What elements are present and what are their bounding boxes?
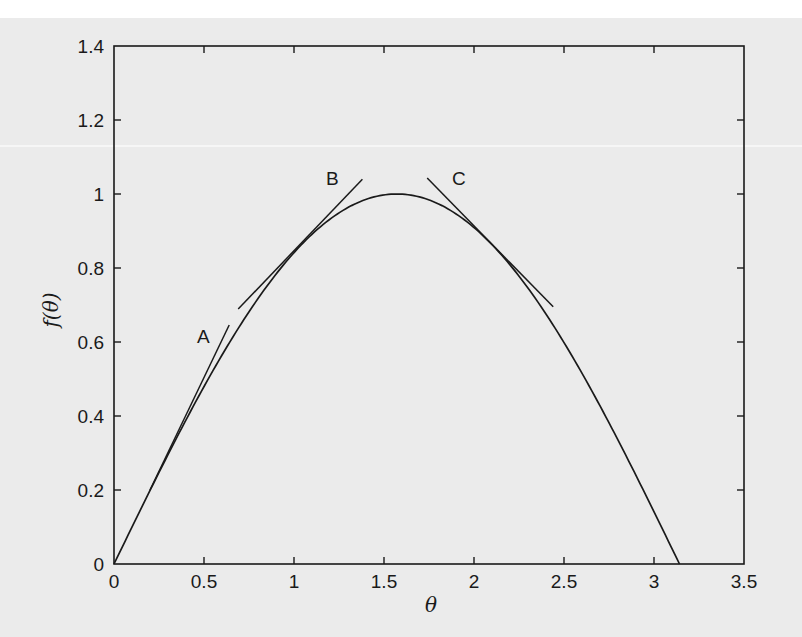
x-tick-label: 2.5 (551, 571, 577, 592)
tangent-line-b (238, 179, 362, 309)
x-tick-label: 0 (109, 571, 120, 592)
x-tick-label: 1 (289, 571, 300, 592)
plot-frame (114, 46, 744, 564)
tick-labels: 00.511.522.533.500.20.40.60.811.21.4 (78, 36, 758, 592)
x-tick-label: 3 (649, 571, 660, 592)
y-axis-label: f(θ) (39, 292, 63, 329)
y-tick-label: 0.2 (78, 480, 104, 501)
y-tick-label: 1 (93, 184, 104, 205)
annotation-a: A (197, 326, 210, 347)
y-tick-label: 0.8 (78, 258, 104, 279)
annotation-c: C (452, 168, 466, 189)
tangent-lines (150, 178, 553, 490)
x-tick-label: 3.5 (731, 571, 757, 592)
chart: 00.511.522.533.500.20.40.60.811.21.4 A B… (0, 0, 802, 637)
y-tick-label: 0.4 (78, 406, 105, 427)
sine-curve (114, 194, 679, 564)
y-tick-label: 1.2 (78, 110, 104, 131)
tangent-line-c (427, 178, 553, 307)
annotation-b: B (326, 168, 339, 189)
axis-ticks (114, 46, 744, 564)
y-tick-label: 0 (93, 554, 104, 575)
x-tick-label: 0.5 (191, 571, 217, 592)
x-tick-label: 1.5 (371, 571, 397, 592)
x-tick-label: 2 (469, 571, 480, 592)
y-tick-label: 0.6 (78, 332, 104, 353)
tangent-line-a (150, 325, 229, 490)
y-tick-label: 1.4 (78, 36, 105, 57)
x-axis-label: θ (425, 593, 437, 617)
